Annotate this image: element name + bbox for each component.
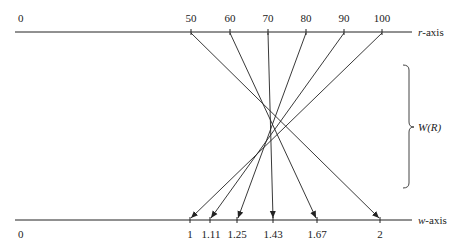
r-tick-label: 50	[186, 12, 198, 24]
w-axis: 0 1 1.11 1.25 1.43 1.67 2 w-axis	[15, 214, 447, 240]
w-tick-label: 1.67	[307, 228, 327, 240]
w-tick-label: 2	[377, 228, 383, 240]
mapping-arrows	[191, 33, 382, 218]
r-tick-label: 60	[225, 12, 237, 24]
mapping-diagram: 0 50 60 70 80 90 100 r-axis 0 1 1.11	[0, 0, 460, 252]
w-axis-origin-label: 0	[18, 228, 24, 240]
r-axis-label: r-axis	[418, 26, 444, 38]
w-tick-label: 1	[187, 228, 193, 240]
range-brace: W(R)	[403, 65, 442, 188]
range-label: W(R)	[418, 121, 442, 134]
r-tick-label: 80	[301, 12, 313, 24]
r-tick-label: 70	[263, 12, 275, 24]
r-tick-label: 90	[339, 12, 351, 24]
w-tick-label: 1.43	[263, 228, 283, 240]
arrow-60-to-1.67	[230, 33, 316, 218]
r-axis: 0 50 60 70 80 90 100 r-axis	[15, 12, 444, 38]
r-tick-label: 100	[374, 12, 391, 24]
w-tick-label: 1.25	[227, 228, 247, 240]
w-axis-label: w-axis	[418, 214, 447, 226]
arrow-90-to-1.11	[211, 33, 344, 218]
r-axis-origin-label: 0	[18, 12, 24, 24]
w-tick-label: 1.11	[202, 228, 221, 240]
curly-brace-icon	[403, 65, 414, 188]
